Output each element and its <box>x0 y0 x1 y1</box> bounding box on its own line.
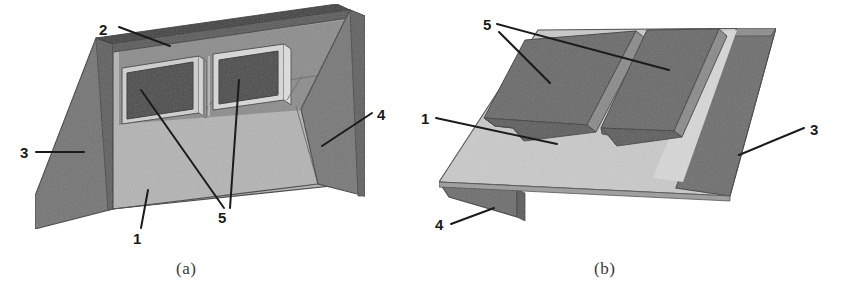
callout-label-4b: 4 <box>435 216 444 233</box>
caption-panel-b: (b) <box>594 259 615 279</box>
callout-label-2a: 2 <box>99 21 107 38</box>
recess-window-right-a <box>219 51 278 104</box>
callout-label-3b: 3 <box>810 121 818 138</box>
figure-container: 2 3 4 1 5 <box>0 0 842 299</box>
figure-panel-a: 2 3 4 1 5 <box>0 0 421 299</box>
callout-label-3a: 3 <box>20 144 28 161</box>
figure-panel-b: 5 1 4 3 <box>421 0 842 299</box>
callout-label-4a: 4 <box>377 106 386 123</box>
callout-label-1b: 1 <box>421 110 429 127</box>
panel-b-body <box>439 28 776 221</box>
leader-line-4b <box>451 208 494 224</box>
panel-a-drawing: 2 3 4 1 5 <box>0 0 421 299</box>
leader-line-3b <box>739 128 804 155</box>
panel-a-body <box>35 4 365 229</box>
panel-b-drawing: 5 1 4 3 <box>421 0 842 299</box>
callout-label-5a: 5 <box>218 209 226 226</box>
callout-label-1a: 1 <box>133 230 141 247</box>
callout-label-5b: 5 <box>483 16 491 33</box>
front-flange-edge-b <box>517 189 525 221</box>
right-flange-top-b <box>732 28 776 36</box>
caption-panel-a: (a) <box>176 259 196 279</box>
